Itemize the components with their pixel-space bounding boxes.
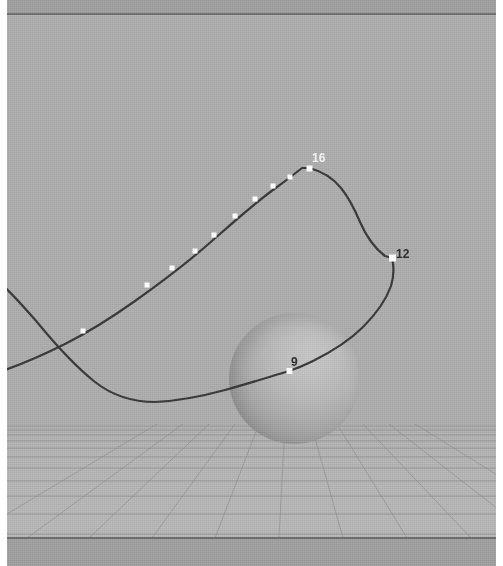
ground-plane — [7, 424, 496, 538]
top-band — [7, 0, 496, 13]
waypoint-label-16: 16 — [312, 152, 325, 164]
bottom-band — [7, 539, 496, 566]
waypoint-label-12: 12 — [396, 248, 409, 260]
app-root: 16 12 9 — [0, 0, 503, 566]
viewport-3d[interactable]: 16 12 9 — [7, 0, 496, 566]
ground-grid — [7, 424, 496, 538]
top-divider — [7, 13, 496, 15]
waypoint-label-9: 9 — [291, 356, 298, 368]
sphere-ball[interactable] — [229, 313, 360, 444]
